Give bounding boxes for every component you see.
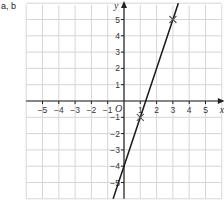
y-tick-label: 5 [115, 15, 120, 25]
y-tick-label: −2 [110, 129, 120, 139]
coordinate-grid-chart: −5−4−3−2−112345−5−4−3−2−112345xyO [0, 0, 224, 203]
y-tick-label: 2 [115, 63, 120, 73]
y-axis-label: y [113, 0, 119, 11]
x-tick-label: −3 [70, 105, 80, 115]
x-axis-label: x [219, 104, 224, 115]
y-tick-label: 4 [115, 31, 120, 41]
y-axis-arrow-icon [121, 1, 127, 8]
y-tick-label: 3 [115, 47, 120, 57]
x-tick-label: 3 [171, 105, 176, 115]
x-tick-label: −5 [38, 105, 48, 115]
x-tick-label: −2 [87, 105, 97, 115]
x-tick-label: 4 [187, 105, 192, 115]
x-tick-label: 2 [154, 105, 159, 115]
y-tick-label: 1 [115, 80, 120, 90]
origin-label: O [115, 103, 122, 114]
y-tick-label: −4 [110, 161, 120, 171]
x-tick-label: 5 [203, 105, 208, 115]
y-tick-label: −3 [110, 145, 120, 155]
x-tick-label: −4 [54, 105, 64, 115]
